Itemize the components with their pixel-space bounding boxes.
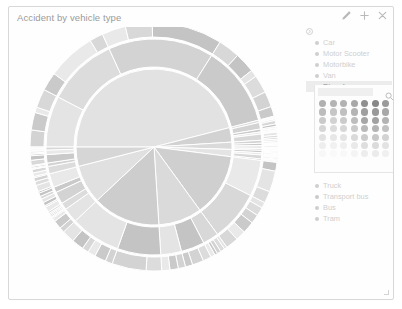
color-swatch-6-5[interactable]	[372, 150, 379, 157]
color-swatch-1-4[interactable]	[361, 108, 368, 115]
legend-color-dot[interactable]	[315, 63, 319, 67]
color-swatch-0-5[interactable]	[372, 100, 379, 107]
legend-item-label: Truck	[323, 182, 341, 190]
color-swatch-6-3[interactable]	[351, 150, 358, 157]
legend-item-van[interactable]: Van	[306, 70, 392, 81]
color-swatch-1-3[interactable]	[351, 108, 358, 115]
legend-color-dot[interactable]	[315, 206, 319, 210]
color-swatch-3-3[interactable]	[351, 125, 358, 132]
sunburst-segment[interactable]	[30, 147, 44, 148]
sunburst-segment[interactable]	[46, 147, 74, 150]
widget-header-actions	[342, 11, 387, 20]
search-icon[interactable]	[385, 87, 394, 105]
legend-item-motorbike[interactable]: Motorbike	[306, 59, 392, 70]
color-swatch-0-2[interactable]	[340, 100, 347, 107]
legend-item-label: Motor Scooter	[323, 50, 369, 58]
legend-color-dot[interactable]	[315, 217, 319, 221]
sunburst-chart[interactable]	[9, 27, 301, 297]
color-swatch-0-7[interactable]	[393, 100, 394, 107]
color-swatch-1-2[interactable]	[340, 108, 347, 115]
color-swatch-6-2[interactable]	[340, 150, 347, 157]
color-swatch-3-2[interactable]	[340, 125, 347, 132]
color-swatch-5-2[interactable]	[340, 142, 347, 149]
color-swatch-1-7[interactable]	[393, 108, 394, 115]
sunburst-svg	[9, 27, 301, 297]
color-swatch-4-2[interactable]	[340, 134, 347, 141]
page-title: Accident by vehicle type	[17, 11, 385, 24]
color-swatch-1-1[interactable]	[330, 108, 337, 115]
color-swatch-0-0[interactable]	[319, 100, 326, 107]
color-swatch-6-7[interactable]	[393, 150, 394, 157]
resize-grip-icon[interactable]	[382, 288, 389, 295]
chart-widget: Accident by vehicle type	[8, 6, 394, 300]
edit-pencil-icon[interactable]	[342, 11, 351, 20]
color-swatch-3-7[interactable]	[393, 125, 394, 132]
color-swatch-2-3[interactable]	[351, 117, 358, 124]
legend-color-dot[interactable]	[315, 184, 319, 188]
legend-item-car[interactable]: Car	[306, 37, 392, 48]
color-swatch-3-0[interactable]	[319, 125, 326, 132]
sunburst-segment[interactable]	[125, 27, 152, 40]
sunburst-segment[interactable]	[146, 257, 162, 271]
move-plus-icon[interactable]	[360, 11, 369, 20]
color-swatch-4-6[interactable]	[382, 134, 389, 141]
color-swatch-4-5[interactable]	[372, 134, 379, 141]
color-swatch-2-5[interactable]	[372, 117, 379, 124]
close-icon[interactable]	[378, 11, 387, 20]
color-swatch-2-4[interactable]	[361, 117, 368, 124]
color-swatch-2-7[interactable]	[393, 117, 394, 124]
color-swatch-3-4[interactable]	[361, 125, 368, 132]
legend-item-bus[interactable]: Bus	[306, 202, 392, 213]
color-swatch-5-5[interactable]	[372, 142, 379, 149]
color-swatch-1-5[interactable]	[372, 108, 379, 115]
color-swatch-4-1[interactable]	[330, 134, 337, 141]
color-swatch-grid	[318, 100, 394, 157]
legend-color-dot[interactable]	[315, 41, 319, 45]
color-swatch-3-6[interactable]	[382, 125, 389, 132]
legend-color-dot[interactable]	[315, 52, 319, 56]
color-picker-popup[interactable]	[314, 85, 394, 173]
legend-item-transport-bus[interactable]: Transport bus	[306, 191, 392, 202]
legend-color-dot[interactable]	[315, 74, 319, 78]
legend-item-label: Tram	[323, 215, 340, 223]
sunburst-segment[interactable]	[161, 256, 170, 271]
color-swatch-3-5[interactable]	[372, 125, 379, 132]
legend-item-label: Bus	[323, 204, 336, 212]
color-swatch-6-0[interactable]	[319, 150, 326, 157]
color-swatch-4-3[interactable]	[351, 134, 358, 141]
legend-item-label: Motorbike	[323, 61, 355, 69]
collapse-circle-icon[interactable]	[306, 28, 313, 37]
color-swatch-6-6[interactable]	[382, 150, 389, 157]
legend-item-tram[interactable]: Tram	[306, 213, 392, 224]
legend-item-truck[interactable]: Truck	[306, 180, 392, 191]
color-swatch-4-0[interactable]	[319, 134, 326, 141]
color-swatch-0-4[interactable]	[361, 100, 368, 107]
color-swatch-0-1[interactable]	[330, 100, 337, 107]
legend-item-motor-scooter[interactable]: Motor Scooter	[306, 48, 392, 59]
color-swatch-1-0[interactable]	[319, 108, 326, 115]
sunburst-rings	[30, 27, 278, 271]
color-swatch-5-1[interactable]	[330, 142, 337, 149]
sunburst-segment[interactable]	[30, 130, 45, 147]
color-swatch-2-1[interactable]	[330, 117, 337, 124]
color-swatch-5-3[interactable]	[351, 142, 358, 149]
color-swatch-0-3[interactable]	[351, 100, 358, 107]
color-swatch-5-0[interactable]	[319, 142, 326, 149]
color-swatch-5-7[interactable]	[393, 142, 394, 149]
color-swatch-4-7[interactable]	[393, 134, 394, 141]
color-swatch-5-4[interactable]	[361, 142, 368, 149]
legend-header	[306, 27, 392, 37]
color-swatch-2-0[interactable]	[319, 117, 326, 124]
color-search-row	[318, 87, 394, 98]
color-swatch-5-6[interactable]	[382, 142, 389, 149]
legend-item-label: Van	[323, 72, 336, 80]
legend-color-dot[interactable]	[315, 195, 319, 199]
color-swatch-4-4[interactable]	[361, 134, 368, 141]
color-swatch-2-6[interactable]	[382, 117, 389, 124]
color-swatch-3-1[interactable]	[330, 125, 337, 132]
color-swatch-2-2[interactable]	[340, 117, 347, 124]
color-swatch-6-4[interactable]	[361, 150, 368, 157]
color-swatch-1-6[interactable]	[382, 108, 389, 115]
color-search-input[interactable]	[318, 88, 373, 96]
color-swatch-6-1[interactable]	[330, 150, 337, 157]
